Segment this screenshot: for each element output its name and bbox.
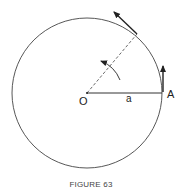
center-label: O <box>79 95 88 107</box>
figure-caption: FIGURE 63 <box>0 180 182 189</box>
dashed-radius <box>87 34 137 93</box>
circle-diagram <box>0 0 182 196</box>
rotation-arc-arrow <box>101 61 120 80</box>
center-point <box>86 92 88 94</box>
radius-label: a <box>126 93 132 104</box>
tangent-velocity-arrow <box>114 12 137 34</box>
point-label: A <box>167 88 174 100</box>
